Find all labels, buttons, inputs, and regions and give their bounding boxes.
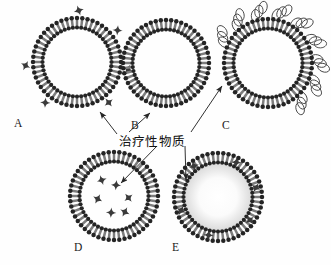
therapeutic-substance-label: 治疗性物质	[119, 131, 185, 150]
liposome-b	[121, 18, 212, 109]
panel-label-d: D	[74, 242, 82, 254]
drug-particle	[19, 59, 33, 73]
liposome-d	[68, 150, 161, 243]
panel-label-e: E	[172, 242, 179, 254]
drug-particle	[121, 191, 136, 206]
drug-particle	[106, 207, 117, 218]
drug-particle	[95, 174, 108, 187]
figure-canvas: A B C D E 治疗性物质	[0, 0, 331, 265]
panel-label-b: B	[131, 120, 139, 132]
drug-particle	[118, 205, 132, 219]
liposome-a	[19, 4, 135, 110]
panel-label-a: A	[14, 118, 22, 130]
drug-particle	[40, 97, 51, 108]
drug-particle	[72, 4, 85, 17]
lipid-bilayer	[31, 16, 124, 109]
arrow-to-a	[100, 112, 117, 134]
aqueous-core-shading	[185, 164, 251, 230]
lipid-bilayer	[68, 150, 161, 243]
panel-label-c: C	[222, 120, 230, 132]
drug-particles	[91, 174, 136, 219]
lipid-bilayer	[121, 18, 212, 109]
liposome-c	[215, 0, 331, 115]
drug-particle	[91, 192, 105, 206]
drug-particle	[112, 25, 123, 36]
liposome-group	[19, 0, 331, 243]
arrow-to-c	[191, 86, 222, 132]
drug-particle	[111, 180, 122, 191]
